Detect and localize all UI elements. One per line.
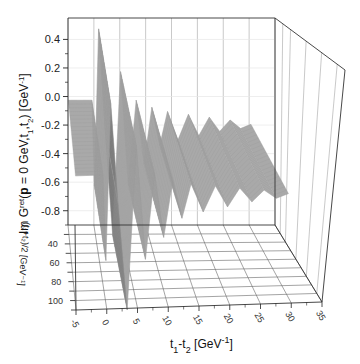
x-tick-label: 20 (222, 312, 236, 326)
grid-line (72, 259, 296, 263)
x-tick-label: 0 (100, 318, 111, 327)
surface-mesh (68, 29, 288, 310)
grid-line (72, 268, 301, 272)
grid-line (75, 293, 317, 300)
y-tick-label: 60 (50, 258, 60, 268)
grid-line (223, 225, 260, 304)
grid-line (146, 225, 169, 307)
grid-line (280, 24, 283, 234)
x-tick-label: 5 (131, 317, 142, 326)
z-axis-title: Im Gret(p = 0 GeV,t1,t2) [GeV-1] (17, 73, 35, 234)
frame-edge (275, 225, 322, 302)
grid-line (74, 285, 311, 291)
surface-plot: 0.40.20.0-0.2-0.4-0.6-0.8 406080100 -505… (0, 0, 360, 364)
x-axis-title: t1-t2 [GeV-1] (170, 335, 233, 355)
x-tick-label: -5 (69, 318, 82, 330)
z-tick-label: -0.2 (41, 119, 60, 131)
x-tick-label: 35 (314, 309, 328, 323)
grid-line (296, 41, 306, 259)
grid-line (71, 251, 291, 254)
z-axis: 0.40.20.0-0.2-0.4-0.6-0.8 (41, 33, 68, 225)
grid-line (73, 276, 306, 281)
z-tick-label: 0.2 (45, 62, 60, 74)
grid-line (285, 30, 290, 243)
z-tick-label: -0.8 (41, 205, 60, 217)
y-axis: 406080100 (48, 234, 76, 310)
frame-edge (75, 225, 76, 310)
x-tick-label: 30 (283, 310, 297, 324)
y-tick-label: 100 (48, 296, 63, 306)
frame-edge (275, 18, 345, 70)
x-tick-label: 15 (191, 313, 205, 327)
grid-line (249, 225, 291, 303)
x-tick-label: 10 (160, 314, 174, 328)
y-tick-label: 80 (51, 277, 61, 287)
z-tick-label: -0.6 (41, 176, 60, 188)
grid-line (197, 225, 229, 305)
grid-line (306, 53, 321, 277)
z-tick-label: 0.0 (45, 91, 60, 103)
grid-line (172, 225, 200, 306)
y-tick-label: 40 (48, 239, 58, 249)
z-tick-label: -0.4 (41, 148, 60, 160)
z-tick-label: 0.4 (45, 33, 60, 45)
x-tick-label: 25 (253, 311, 267, 325)
